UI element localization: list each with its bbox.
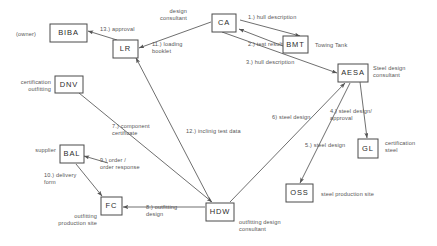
node-biba[interactable]: BIBA bbox=[50, 24, 87, 42]
node-label-oss: OSS bbox=[290, 188, 309, 197]
node-label-lr: LR bbox=[120, 44, 131, 53]
edge-label-e8: 8.) outfittingdesign bbox=[146, 204, 177, 217]
edge-label-e10: 10.) deliveryform bbox=[44, 172, 76, 185]
node-label-dnv: DNV bbox=[60, 80, 79, 89]
edge-label-e3: 3.) hull description bbox=[246, 59, 294, 65]
role-label-ca: designconsultant bbox=[160, 8, 187, 21]
node-bmt[interactable]: BMT bbox=[283, 36, 308, 53]
role-label-hdw: outfitting designconsultant bbox=[239, 219, 281, 232]
edge-e1 bbox=[240, 20, 300, 36]
edge-e13 bbox=[88, 31, 117, 40]
role-label-bmt: Towing Tank bbox=[315, 42, 347, 48]
node-label-bal: BAL bbox=[64, 149, 81, 158]
node-label-bmt: BMT bbox=[286, 40, 305, 49]
role-label-fc: outfittingproduction site bbox=[58, 213, 97, 226]
edge-label-e7: 7.) componentcertificate bbox=[112, 123, 150, 136]
edge-label-e5: 5.) steel design bbox=[305, 142, 345, 148]
role-label-biba: (owner) bbox=[16, 31, 36, 37]
role-label-bal: supplier bbox=[35, 147, 56, 153]
node-label-fc: FC bbox=[106, 201, 118, 210]
edge-label-e13: 13.) approval bbox=[100, 26, 135, 32]
partner-communication-diagram: 1.) hull description2.) test results3.) … bbox=[0, 0, 437, 246]
edge-label-e2: 2.) test results bbox=[248, 41, 286, 47]
node-hdw[interactable]: HDW bbox=[206, 203, 234, 221]
node-dnv[interactable]: DNV bbox=[55, 76, 83, 93]
node-bal[interactable]: BAL bbox=[60, 145, 84, 163]
role-label-aesa: Steel designconsultant bbox=[373, 65, 406, 78]
edge-e7 bbox=[79, 93, 212, 202]
node-label-aesa: AESA bbox=[341, 68, 365, 77]
role-label-gl: certificationsteel bbox=[385, 140, 415, 153]
edge-e10 bbox=[76, 164, 102, 196]
edge-label-e6: 6) steel design bbox=[272, 114, 311, 120]
node-fc[interactable]: FC bbox=[101, 197, 122, 215]
edge-label-e12: 12.) inclinig test data bbox=[186, 128, 241, 134]
edge-label-e11: 11.) loadingbooklet bbox=[152, 41, 183, 54]
role-label-dnv: certificationoutfitting bbox=[21, 79, 51, 92]
edge-label-e1: 1.) hull description bbox=[248, 14, 296, 20]
edge-label-e9: 9.) order /order response bbox=[100, 157, 140, 170]
role-label-oss: steel production site bbox=[321, 191, 374, 197]
node-label-ca: CA bbox=[218, 18, 230, 27]
node-label-gl: GL bbox=[362, 144, 374, 153]
node-label-hdw: HDW bbox=[210, 207, 231, 216]
node-gl[interactable]: GL bbox=[358, 139, 378, 158]
edge-label-e4: 4.) steel design/approval bbox=[330, 108, 372, 121]
node-aesa[interactable]: AESA bbox=[338, 64, 368, 82]
edge-e3 bbox=[222, 32, 337, 73]
edge-e5 bbox=[300, 83, 350, 183]
node-label-biba: BIBA bbox=[58, 28, 79, 37]
node-lr[interactable]: LR bbox=[113, 40, 138, 58]
diagram-canvas: 1.) hull description2.) test results3.) … bbox=[0, 0, 437, 246]
node-oss[interactable]: OSS bbox=[286, 184, 313, 202]
node-ca[interactable]: CA bbox=[212, 14, 236, 32]
